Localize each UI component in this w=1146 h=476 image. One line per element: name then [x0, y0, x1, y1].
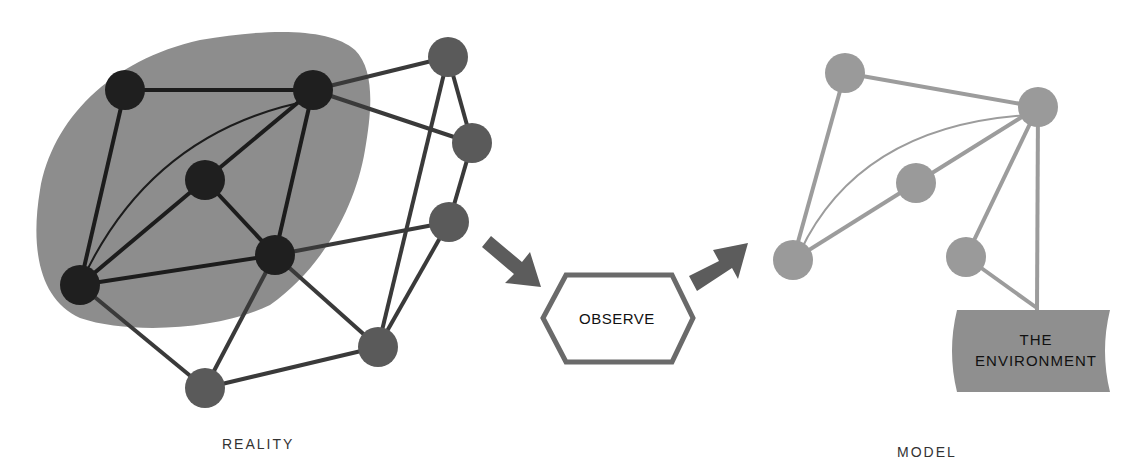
node: [452, 123, 492, 163]
observe-label: OBSERVE: [579, 310, 655, 327]
arrow-to-model-icon: [689, 243, 748, 291]
environment-box: THE ENVIRONMENT: [952, 310, 1110, 392]
node: [293, 70, 333, 110]
node: [105, 70, 145, 110]
node: [185, 368, 225, 408]
node: [255, 235, 295, 275]
node: [946, 237, 986, 277]
model-label: MODEL: [897, 444, 957, 460]
node: [60, 265, 100, 305]
node: [896, 163, 936, 203]
reality-label: REALITY: [222, 436, 294, 452]
node: [428, 37, 468, 77]
node: [773, 240, 813, 280]
environment-label-line2: ENVIRONMENT: [975, 352, 1097, 369]
observe-process: OBSERVE: [543, 275, 693, 362]
node: [185, 160, 225, 200]
node: [825, 53, 865, 93]
arrow-to-observe-icon: [482, 236, 541, 287]
node: [429, 202, 469, 242]
environment-label-line1: THE: [1020, 331, 1053, 348]
environment-shape: [952, 310, 1110, 392]
reality-model-diagram: OBSERVE THE ENVIRONMENT: [0, 0, 1146, 476]
node: [1018, 87, 1058, 127]
node: [358, 327, 398, 367]
